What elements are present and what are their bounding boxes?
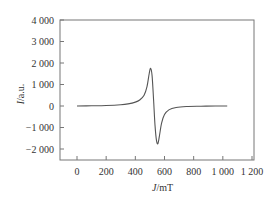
y-axis-label: I/a.u. — [15, 84, 26, 106]
y-tick-label: 0 — [49, 101, 54, 112]
y-tick-label: −1 000 — [26, 122, 54, 133]
y-tick-label: 2 000 — [32, 58, 55, 69]
y-tick-label: 3 000 — [32, 36, 55, 47]
y-tick-label: −2 000 — [26, 144, 54, 155]
x-tick-label: 400 — [128, 166, 143, 177]
x-tick-label: 800 — [186, 166, 201, 177]
chart: −2 000−1 00001 0002 0003 0004 0000200400… — [0, 0, 274, 198]
x-tick-label: 1 000 — [212, 166, 235, 177]
data-line — [77, 68, 227, 144]
plot-frame — [60, 20, 254, 160]
x-axis-label: J/mT — [152, 182, 173, 193]
x-tick-label: 600 — [157, 166, 172, 177]
x-tick-label: 200 — [99, 166, 114, 177]
x-tick-label: 1 200 — [241, 166, 264, 177]
y-tick-label: 1 000 — [32, 79, 55, 90]
x-tick-label: 0 — [75, 166, 80, 177]
y-tick-label: 4 000 — [32, 15, 55, 26]
